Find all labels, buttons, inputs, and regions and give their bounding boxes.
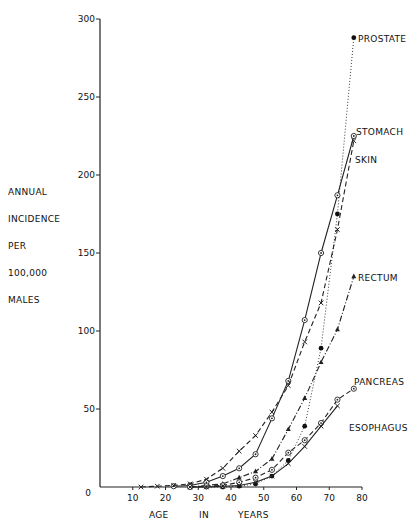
x-tick-label: 50 <box>258 493 270 503</box>
legend-label-stomach: STOMACH <box>356 127 403 137</box>
legend-label-rectum: RECTUM <box>358 273 398 283</box>
x-tick-label: 70 <box>324 493 336 503</box>
x-label-part: YEARS <box>237 510 269 520</box>
series-rectum <box>188 274 357 489</box>
x-label-part: IN <box>199 510 209 520</box>
series-esophagus <box>188 404 340 490</box>
x-axis-label: AGEINYEARS <box>149 510 269 520</box>
y-tick-label: 300 <box>78 14 95 24</box>
y-label-line: 100,000 <box>8 268 47 278</box>
y-label-line: MALES <box>8 295 40 305</box>
x-tick-label: 60 <box>291 493 303 503</box>
y-label-line: PER <box>8 241 26 251</box>
legend-label-pancreas: PANCREAS <box>354 377 404 387</box>
origin-label: 0 <box>85 488 91 498</box>
x-tick-label: 10 <box>127 493 139 503</box>
series-stomach <box>171 133 356 488</box>
y-tick-label: 50 <box>84 404 96 414</box>
inline-legend-labels: PROSTATESTOMACHSKINRECTUMPANCREASESOPHAG… <box>349 34 408 433</box>
y-label-line: ANNUAL <box>8 187 47 197</box>
axes: 5010015020025030001020304050607080 <box>78 14 368 503</box>
x-label-part: AGE <box>149 510 169 520</box>
series-lines <box>139 35 357 489</box>
y-tick-label: 250 <box>78 92 95 102</box>
legend-label-esophagus: ESOPHAGUS <box>349 423 408 433</box>
y-tick-label: 150 <box>78 248 95 258</box>
incidence-line-chart: 5010015020025030001020304050607080 ANNUA… <box>0 0 415 529</box>
legend-label-prostate: PROSTATE <box>358 34 406 44</box>
x-tick-label: 20 <box>160 493 172 503</box>
y-tick-label: 100 <box>78 326 95 336</box>
y-axis-label: ANNUALINCIDENCEPER100,000MALES <box>8 187 60 305</box>
x-tick-label: 80 <box>356 493 368 503</box>
y-label-line: INCIDENCE <box>8 214 60 224</box>
x-tick-label: 40 <box>225 493 237 503</box>
series-skin <box>139 138 356 489</box>
x-tick-label: 30 <box>193 493 205 503</box>
y-tick-label: 200 <box>78 170 95 180</box>
legend-label-skin: SKIN <box>355 155 377 165</box>
